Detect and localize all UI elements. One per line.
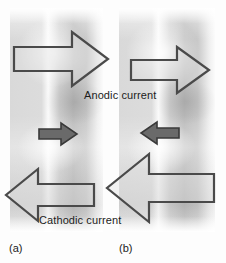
cathodic-current-arrow-b bbox=[105, 150, 216, 226]
net-current-arrow-b bbox=[139, 120, 181, 146]
panel-caption-b: (b) bbox=[119, 243, 132, 254]
panel-caption-a: (a) bbox=[9, 243, 22, 254]
electrochemistry-current-figure: Anodic current Cathodic current (a) (b) bbox=[0, 0, 226, 263]
cathodic-current-label: Cathodic current bbox=[39, 215, 121, 226]
anodic-current-label: Anodic current bbox=[84, 90, 156, 101]
net-current-arrow-a bbox=[37, 121, 79, 147]
anodic-current-arrow-a bbox=[12, 28, 110, 90]
